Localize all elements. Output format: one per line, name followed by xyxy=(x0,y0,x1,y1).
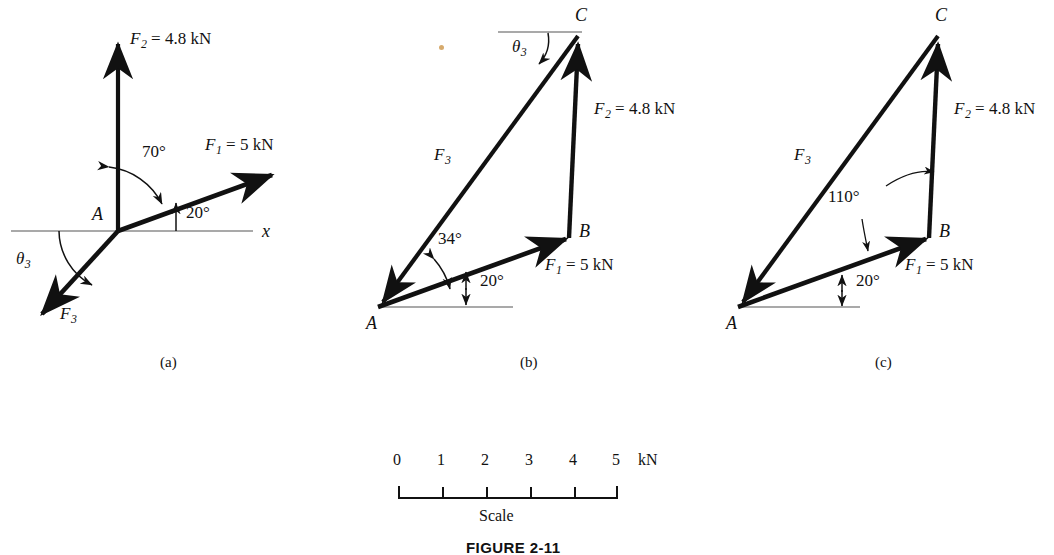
panel-b-theta3-arc xyxy=(539,33,549,64)
panel-b-theta3-label: θ3 xyxy=(512,38,527,59)
panel-b-force-f2-arrow xyxy=(569,44,578,238)
panel-b-caption: (b) xyxy=(520,355,538,370)
panel-c-angle-110-leader-lower xyxy=(862,219,868,251)
panel-a-force-f3-label: F3 xyxy=(60,305,77,326)
scale-tick-label-0: 0 xyxy=(393,452,401,468)
scale-tick-label-4: 4 xyxy=(569,452,577,468)
panel-a-graphics xyxy=(11,44,272,314)
panel-a-x-axis-label: x xyxy=(262,222,270,240)
scale-unit-label: kN xyxy=(638,452,658,468)
panel-a-angle-70-label: 70° xyxy=(142,143,166,160)
panel-b-point-a-label: A xyxy=(366,314,377,332)
scale-tick-label-3: 3 xyxy=(525,452,533,468)
panel-c-point-c-label: C xyxy=(935,6,947,24)
panel-a-angle-20-label: 20° xyxy=(186,204,210,221)
scale-tick-label-5: 5 xyxy=(612,452,620,468)
scale-tick-label-1: 1 xyxy=(437,452,445,468)
panel-b-point-b-label: B xyxy=(579,222,590,240)
scale-bar-graphics xyxy=(398,486,618,498)
panel-c-force-f3-label: F3 xyxy=(794,146,811,167)
panel-c-force-f1-label: F1 = 5 kN xyxy=(905,256,973,277)
panel-a-caption: (a) xyxy=(160,355,177,370)
panel-b-angle-20-label: 20° xyxy=(480,272,504,289)
panel-a-theta3-label: θ3 xyxy=(16,250,31,271)
panel-b-point-c-label: C xyxy=(575,6,587,24)
panel-c-force-f2-arrow xyxy=(929,44,938,238)
panel-b-force-f1-label: F1 = 5 kN xyxy=(545,256,613,277)
panel-c-angle-20-label: 20° xyxy=(856,272,880,289)
panel-a-force-f2-label: F2 = 4.8 kN xyxy=(130,30,211,51)
panel-a-point-a-label: A xyxy=(92,205,103,223)
panel-a-force-f3-arrow xyxy=(42,231,118,314)
panel-b-angle-34-label: 34° xyxy=(438,230,462,247)
scale-tick-label-2: 2 xyxy=(481,452,489,468)
scale-caption: Scale xyxy=(479,508,514,524)
panel-c-angle-110-label: 110° xyxy=(828,188,860,205)
panel-b-force-f3-label: F3 xyxy=(434,146,451,167)
panel-c-force-f2-label: F2 = 4.8 kN xyxy=(954,100,1035,121)
panel-c-caption: (c) xyxy=(875,355,892,370)
figure-vector-graphics xyxy=(0,0,1054,555)
figure-container: F2 = 4.8 kN F1 = 5 kN F3 A x 70° 20° θ3 … xyxy=(0,0,1054,555)
panel-c-angle-110-leader-upper xyxy=(886,171,934,186)
panel-c-point-b-label: B xyxy=(939,222,950,240)
panel-c-point-a-label: A xyxy=(726,314,737,332)
scan-artifact-speck xyxy=(439,45,444,50)
panel-b-force-f2-label: F2 = 4.8 kN xyxy=(594,100,675,121)
panel-a-force-f1-label: F1 = 5 kN xyxy=(205,136,273,157)
figure-caption: FIGURE 2-11 xyxy=(466,540,560,555)
